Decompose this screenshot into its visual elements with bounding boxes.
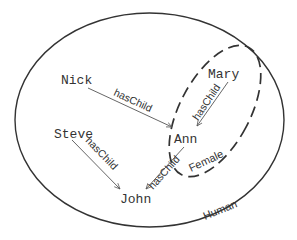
edge-label-nick-ann: hasChild <box>112 86 154 114</box>
female-set-label: Female <box>187 147 225 173</box>
edge-steve-john: hasChild <box>72 134 121 189</box>
node-mary: Mary <box>208 67 239 82</box>
node-ann: Ann <box>174 132 197 147</box>
edge-nick-ann: hasChild <box>88 86 172 127</box>
ontology-diagram: Human Female hasChild hasChild hasChild … <box>0 0 297 240</box>
node-steve: Steve <box>54 127 93 142</box>
edge-ann-john: hasChild <box>146 147 184 191</box>
node-john: John <box>120 192 151 207</box>
human-set-label: Human <box>201 197 238 221</box>
edge-label-mary-ann: hasChild <box>190 81 223 122</box>
edge-mary-ann: hasChild <box>190 81 228 126</box>
node-nick: Nick <box>61 73 92 88</box>
